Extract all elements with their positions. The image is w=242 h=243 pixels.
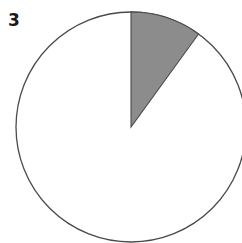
pie-slice-unshaded [16, 12, 242, 242]
pie-chart [0, 0, 242, 243]
